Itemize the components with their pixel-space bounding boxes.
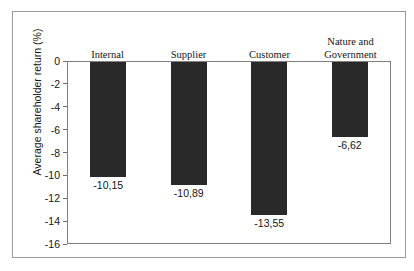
y-axis-tick-label: 0 [54, 55, 60, 67]
y-axis-tick: 0 [54, 55, 67, 67]
y-axis-tick: -10 [45, 169, 67, 181]
y-axis-tick-label: -8 [51, 147, 60, 159]
bar-supplier[interactable] [171, 62, 207, 185]
chart-figure: Internal Supplier Customer Nature and Go… [12, 11, 406, 258]
y-axis-tick: -8 [51, 147, 67, 159]
bar-value-label-customer: -13,55 [254, 217, 284, 229]
y-axis-tick-label: -2 [51, 78, 60, 90]
y-axis-tick-label: -16 [45, 238, 60, 250]
y-axis-tick: -16 [45, 238, 67, 250]
category-label-line: Government [324, 49, 377, 62]
y-axis-tick-labels: 0-2-4-6-8-10-12-14-16 [27, 61, 67, 244]
bar-slot-internal: -10,15 [68, 62, 149, 243]
category-label-internal: Internal [67, 19, 148, 61]
y-axis-tick: -2 [51, 78, 67, 90]
y-axis-tick: -6 [51, 124, 67, 136]
bar-value-label-nature-and-government: -6,62 [338, 139, 362, 151]
bar-internal[interactable] [90, 62, 126, 177]
category-label-line: Internal [91, 49, 124, 62]
bar-value-label-supplier: -10,89 [174, 187, 204, 199]
bar-slot-supplier: -10,89 [149, 62, 230, 243]
bar-customer[interactable] [251, 62, 287, 215]
category-label-line: Supplier [171, 49, 207, 62]
category-label-supplier: Supplier [148, 19, 229, 61]
category-label-row: Internal Supplier Customer Nature and Go… [67, 19, 391, 61]
y-axis-tick-label: -14 [45, 215, 60, 227]
plot-area: -10,15-10,89-13,55-6,62 [67, 61, 391, 244]
bar-slot-customer: -13,55 [229, 62, 310, 243]
bar-slot-nature-and-government: -6,62 [310, 62, 391, 243]
category-label-line: Customer [249, 49, 290, 62]
bar-series: -10,15-10,89-13,55-6,62 [68, 62, 390, 243]
y-axis-tick-label: -6 [51, 124, 60, 136]
y-axis-tick: -14 [45, 215, 67, 227]
y-axis-tick-label: -12 [45, 192, 60, 204]
bar-value-label-internal: -10,15 [93, 179, 123, 191]
category-label-line: Nature and [327, 36, 373, 49]
category-label-nature-and-government: Nature and Government [310, 19, 391, 61]
y-axis-tick: -4 [51, 101, 67, 113]
y-axis-tick-label: -4 [51, 101, 60, 113]
category-label-customer: Customer [229, 19, 310, 61]
y-axis-tick-label: -10 [45, 169, 60, 181]
y-axis-tick: -12 [45, 192, 67, 204]
bar-nature-and-government[interactable] [332, 62, 368, 137]
